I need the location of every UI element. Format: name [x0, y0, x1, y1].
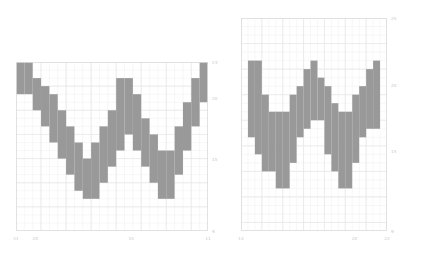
heatmap-cell-column: [91, 142, 99, 198]
heatmap-cell-column: [338, 112, 345, 189]
x-tick-label: 11: [205, 236, 211, 241]
chart-panel-right: 132022 2520159: [220, 0, 421, 257]
plot-area-right: [241, 18, 387, 231]
y-tick-label: 20: [212, 96, 218, 101]
heatmap-cell-column: [49, 94, 57, 142]
heatmap-svg-left: [16, 62, 208, 231]
heatmap-cell-column: [116, 78, 124, 150]
heatmap-cell-column: [276, 112, 283, 189]
heatmap-cell-column: [317, 78, 324, 121]
y-tick-label: 9: [212, 229, 215, 234]
heatmap-cell-column: [290, 95, 297, 163]
heatmap-cell-column: [24, 62, 32, 94]
chart-panel-left: 21201511 2320159: [0, 0, 220, 257]
heatmap-cell-column: [133, 94, 141, 150]
heatmap-cell-column: [99, 126, 107, 182]
grid-and-cells-right: [241, 18, 387, 231]
heatmap-cell-column: [366, 69, 373, 129]
heatmap-cell-column: [183, 102, 191, 150]
heatmap-cell-column: [141, 118, 149, 166]
heatmap-cell-column: [345, 112, 352, 189]
heatmap-cell-column: [150, 134, 158, 182]
heatmap-cell-column: [255, 61, 262, 155]
y-tick-label: 9: [391, 229, 394, 234]
heatmap-cell-column: [359, 86, 366, 137]
heatmap-cell-column: [311, 61, 318, 121]
grid-and-cells-left: [16, 62, 208, 231]
y-tick-label: 15: [391, 149, 397, 154]
heatmap-cell-column: [83, 159, 91, 199]
heatmap-cell-column: [58, 110, 66, 158]
heatmap-cell-column: [262, 95, 269, 172]
heatmap-cell-column: [297, 86, 304, 137]
heatmap-cell-column: [352, 95, 359, 163]
heatmap-cell-column: [74, 142, 82, 190]
heatmap-cell-column: [304, 69, 311, 129]
y-tick-label: 25: [391, 16, 397, 21]
heatmap-cell-column: [283, 112, 290, 189]
x-tick-label: 20: [32, 236, 38, 241]
heatmap-cell-column: [248, 61, 255, 138]
y-tick-label: 23: [212, 60, 218, 65]
heatmap-cell-column: [125, 78, 133, 134]
x-tick-label: 20: [352, 236, 358, 241]
x-tick-label: 15: [128, 236, 134, 241]
heatmap-cell-column: [269, 112, 276, 172]
figure-canvas: 21201511 2320159 132022 2520159: [0, 0, 421, 257]
heatmap-cell-column: [331, 103, 338, 171]
x-tick-label: 21: [13, 236, 19, 241]
plot-area-left: [16, 62, 208, 231]
heatmap-cell-column: [166, 151, 174, 199]
heatmap-cell-column: [33, 78, 41, 110]
heatmap-cell-column: [191, 78, 199, 126]
heatmap-cell-column: [200, 62, 208, 102]
x-tick-label: 22: [384, 236, 390, 241]
heatmap-cell-column: [66, 126, 74, 174]
heatmap-cell-column: [324, 86, 331, 154]
heatmap-cell-column: [108, 110, 116, 166]
y-tick-label: 15: [212, 156, 218, 161]
heatmap-cell-column: [373, 61, 380, 129]
heatmap-cell-column: [16, 62, 24, 94]
heatmap-cell-column: [175, 126, 183, 174]
x-tick-label: 13: [238, 236, 244, 241]
y-tick-label: 20: [391, 82, 397, 87]
heatmap-cell-column: [41, 86, 49, 126]
heatmap-svg-right: [241, 18, 387, 231]
heatmap-cell-column: [158, 151, 166, 199]
